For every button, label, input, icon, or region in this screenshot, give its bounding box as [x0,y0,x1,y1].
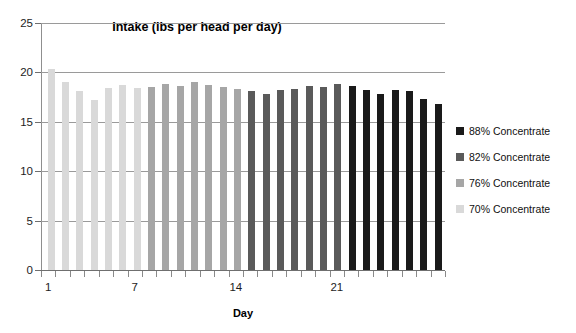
legend-item[interactable]: 76% Concentrate [456,172,574,194]
x-axis-tick-mark [373,271,374,277]
legend-swatch-icon [456,127,464,135]
bar [420,99,427,270]
y-axis-tick-label: 10 [0,165,33,177]
bar [105,88,112,270]
bar-slot [101,23,115,270]
bar-slot [187,23,201,270]
x-axis-tick-mark [113,271,114,277]
x-axis-tick-mark [315,271,316,277]
bar-slot [245,23,259,270]
x-axis-tick-mark [55,271,56,277]
bar-slot [288,23,302,270]
x-axis-tick-mark [70,271,71,277]
x-axis-tick-mark [84,271,85,277]
bar-slot [388,23,402,270]
bar [234,89,241,270]
bar-slot [302,23,316,270]
x-axis-tick-mark [142,271,143,277]
x-axis-tick-label: 21 [330,281,343,293]
bar-slot [273,23,287,270]
bar [148,87,155,270]
bar-slot [331,23,345,270]
x-axis-tick-mark [402,271,403,277]
bar [177,86,184,270]
bar-slot [345,23,359,270]
bar-slot [431,23,445,270]
legend-swatch-icon [456,205,464,213]
bar-slot [259,23,273,270]
bar [91,100,98,270]
bar-slot [58,23,72,270]
bar [291,89,298,270]
bar-slot [374,23,388,270]
x-axis-tick-label: 14 [229,281,242,293]
legend-label: 76% Concentrate [469,177,550,189]
legend-label: 82% Concentrate [469,151,550,163]
bar [349,86,356,270]
bar [220,87,227,270]
x-axis-tick-mark [358,271,359,277]
x-axis-tick-mark [344,271,345,277]
x-axis-tick-mark [286,271,287,277]
bar-slot [116,23,130,270]
bar [134,88,141,270]
bar [62,82,69,270]
bar [76,91,83,270]
y-axis-tick-label: 15 [0,116,33,128]
x-axis-tick-mark [330,271,331,277]
x-axis-tick-mark [200,271,201,277]
y-axis-tick-label: 0 [0,264,33,276]
bar-slot [402,23,416,270]
legend-label: 70% Concentrate [469,203,550,215]
y-axis-tick-label: 20 [0,66,33,78]
x-axis-tick-mark [301,271,302,277]
bar-slot [173,23,187,270]
bar-slot [73,23,87,270]
chart-container: Intake (lbs per head per day) 0510152025… [0,0,576,333]
bar [277,90,284,270]
bar-slot [159,23,173,270]
x-axis-title: Day [41,307,445,319]
x-axis-tick-mark [416,271,417,277]
x-axis-tick-mark [257,271,258,277]
y-axis-tick-label: 25 [0,17,33,29]
x-axis-tick-mark [387,271,388,277]
x-axis-tick-mark [445,271,446,277]
bar [248,91,255,270]
bar-slot [417,23,431,270]
legend-item[interactable]: 82% Concentrate [456,146,574,168]
x-axis-tick-label: 1 [45,281,51,293]
x-axis-tick-mark [214,271,215,277]
bar [48,69,55,270]
x-axis-tick-label: 7 [132,281,138,293]
bar-slot [216,23,230,270]
bar-slot [87,23,101,270]
bar-slot [44,23,58,270]
bar [406,91,413,270]
bar [435,104,442,270]
legend-item[interactable]: 70% Concentrate [456,198,574,220]
x-axis-tick-mark [128,271,129,277]
bar-slot [230,23,244,270]
legend-item[interactable]: 88% Concentrate [456,120,574,142]
x-axis-tick-mark [171,271,172,277]
bar [320,87,327,270]
plot-area [41,23,445,270]
x-axis-tick-mark [272,271,273,277]
x-axis-ticks [41,271,445,277]
bar-slot [316,23,330,270]
bar [205,85,212,270]
bar [263,94,270,270]
x-axis-tick-mark [431,271,432,277]
x-axis-tick-mark [229,271,230,277]
legend-swatch-icon [456,153,464,161]
x-axis-tick-mark [41,271,42,277]
x-axis-tick-mark [156,271,157,277]
x-axis-tick-mark [185,271,186,277]
bar [119,85,126,270]
bar [392,90,399,270]
x-axis-tick-mark [243,271,244,277]
bar [191,82,198,270]
legend: 88% Concentrate82% Concentrate76% Concen… [456,120,574,224]
bar-slot [130,23,144,270]
